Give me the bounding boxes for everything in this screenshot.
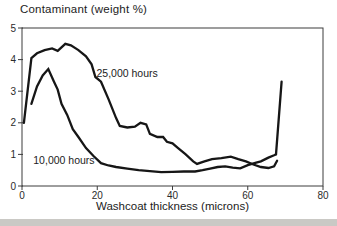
chart-plot-area: 02040608001234525,000 hours10,000 hours: [0, 0, 337, 226]
y-tick-label-3: 3: [10, 86, 16, 97]
series-label-0: 25,000 hours: [96, 67, 157, 79]
y-tick-label-2: 2: [10, 117, 16, 128]
y-tick-label-0: 0: [10, 181, 16, 192]
y-tick-label-4: 4: [10, 54, 16, 65]
bottom-strip: [0, 219, 337, 226]
y-tick-label-5: 5: [10, 23, 16, 34]
series-label-1: 10,000 hours: [33, 154, 94, 166]
y-tick-label-1: 1: [10, 149, 16, 160]
chart-figure: Contaminant (weight %) 02040608001234525…: [0, 0, 337, 226]
x-axis-title: Washcoat thickness (microns): [22, 200, 323, 212]
